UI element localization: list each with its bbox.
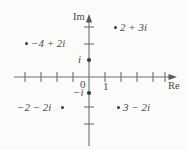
point-marker-3-minus-2i [117,106,120,109]
point-label-minus-2-minus-2i: −2 − 2i [17,102,51,113]
imaginary-unit-negative-label: −i [73,87,83,98]
point-marker-i [87,58,91,62]
complex-plane-figure: Im Re 0 1 i −i 2 + 3i −4 + 2i −2 − 2i 3 … [0,0,188,150]
real-unit-label: 1 [103,81,109,92]
point-label-minus-4-plus-2i: −4 + 2i [31,38,65,49]
imaginary-axis-label: Im [73,12,85,23]
point-marker-2-plus-3i [114,26,117,29]
point-label-3-minus-2i: 3 − 2i [123,102,150,113]
point-marker-negative-i [87,91,91,95]
point-marker-minus-2-minus-2i [61,106,64,109]
point-label-2-plus-3i: 2 + 3i [120,22,147,33]
argand-diagram-axes [0,0,188,150]
imaginary-axis-arrow [86,14,92,23]
imaginary-unit-label: i [78,54,81,65]
point-marker-minus-4-plus-2i [25,42,28,45]
real-axis-label: Re [168,81,180,92]
imaginary-axis [86,14,92,146]
